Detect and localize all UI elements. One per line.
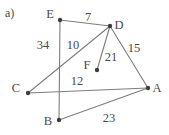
- graph-edge-c-a: [28, 88, 148, 93]
- edge-weight-e-d: 7: [85, 11, 91, 24]
- edge-weight-d-f: 21: [105, 51, 118, 64]
- edge-weight-b-a: 23: [103, 112, 116, 125]
- graph-vertex-f: [95, 68, 99, 72]
- graph-edge-e-b: [59, 20, 60, 120]
- graph-edge-d-c: [28, 26, 110, 93]
- edge-weight-d-c: 10: [67, 39, 80, 52]
- graph-vertex-c: [26, 91, 30, 95]
- edge-weight-e-b: 34: [37, 39, 50, 52]
- vertex-label-f: F: [84, 59, 91, 72]
- part-label: a): [5, 7, 14, 19]
- vertex-label-d: D: [114, 19, 123, 32]
- graph-figure: a) EDCABF 7341015211223: [0, 0, 169, 135]
- graph-vertex-d: [108, 24, 112, 28]
- edge-weight-d-a: 15: [128, 42, 141, 55]
- edge-weight-c-a: 12: [71, 75, 84, 88]
- vertex-label-a: A: [152, 82, 161, 95]
- vertex-label-c: C: [12, 82, 20, 95]
- vertex-label-e: E: [46, 8, 54, 21]
- graph-vertex-b: [57, 118, 61, 122]
- graph-vertex-a: [146, 86, 150, 90]
- graph-vertex-e: [58, 18, 62, 22]
- vertex-label-b: B: [44, 115, 52, 128]
